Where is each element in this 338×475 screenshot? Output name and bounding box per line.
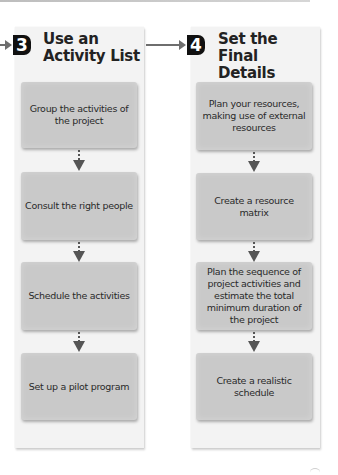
step-box: Schedule the activities [21, 262, 137, 330]
panel-title-3: Use an Activity List [43, 31, 143, 65]
step-number-badge-3: 3 [13, 35, 31, 55]
step-number-badge-4: 4 [187, 35, 205, 55]
down-arrow-icon [248, 341, 260, 352]
step-box: Group the activities of the project [21, 82, 137, 148]
down-arrow-icon [73, 341, 85, 352]
down-arrow-icon [73, 160, 85, 171]
down-arrow-icon [73, 251, 85, 262]
incoming-arrow [0, 44, 6, 46]
step-box: Consult the right people [21, 172, 137, 240]
step-box: Plan your resources, making use of exter… [196, 82, 312, 150]
connector-arrow-3-to-4 [146, 44, 180, 46]
down-arrow-icon [248, 251, 260, 262]
panel-title-4: Set the Final Details [218, 31, 318, 82]
page-curl-mark [310, 468, 320, 475]
down-arrow-icon [248, 161, 260, 172]
dotted-connector [78, 150, 80, 160]
top-rule [0, 0, 310, 2]
step-box: Set up a pilot program [21, 353, 137, 420]
step-box: Create a realistic schedule [196, 353, 312, 420]
step-box: Create a resource matrix [196, 173, 312, 240]
step-box: Plan the sequence of project activities … [196, 262, 312, 330]
